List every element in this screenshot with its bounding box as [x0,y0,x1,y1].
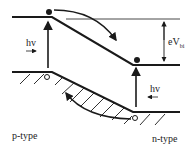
photon-label-left: hv [26,38,36,48]
band-diagram-svg [0,0,195,151]
barrier-label-main: eV [168,36,180,47]
valence-hatching [20,74,165,125]
photon-label-right: hv [150,84,160,94]
barrier-label-sub: bi [180,43,185,49]
p-type-label: p-type [12,131,38,141]
electron-p [46,9,52,15]
n-type-label: n-type [152,134,178,144]
band-diagram: hv hv eVbi p-type n-type [0,0,195,151]
hole-n [133,116,138,121]
electron-n [134,57,140,63]
hole-p [45,75,50,80]
conduction-band [12,17,180,65]
barrier-label: eVbi [168,37,184,49]
